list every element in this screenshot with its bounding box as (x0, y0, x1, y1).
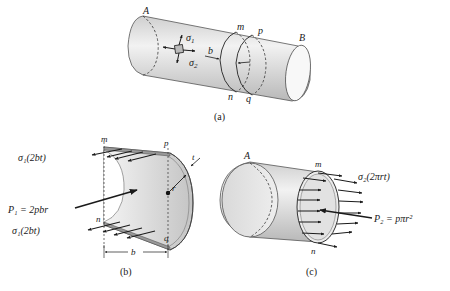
cylinder-stress-diagram: A B σ1 σ2 b m p n q (a) (0, 0, 450, 291)
cylinder-body (128, 16, 310, 101)
panel-a: A B σ1 σ2 b m p n q (a) (128, 5, 314, 123)
label-top-force: σ₁(2bt) (18, 152, 47, 164)
label-t: t (192, 152, 195, 162)
label-n: n (96, 214, 101, 224)
label-B: B (299, 32, 305, 43)
label-sigma2-force: σ₂(2πrt) (358, 171, 390, 183)
closed-end-cap (222, 163, 278, 237)
label-r: r (172, 183, 176, 193)
label-pressure-force: P₁ = 2pbr (7, 204, 48, 215)
label-p: p (163, 138, 169, 148)
panel-b: m n p q t r b σ₁(2bt) σ₁(2bt) P₁ = 2pbr … (7, 134, 200, 278)
panel-c: A m n σ₂(2πrt) P₂ = pπr² (c) (220, 150, 413, 278)
label-pressure-force: P₂ = pπr² (373, 213, 413, 224)
stress-element (174, 44, 183, 53)
label-A: A (142, 5, 150, 16)
label-q: q (246, 93, 251, 104)
caption-c: (c) (306, 266, 317, 278)
label-m: m (315, 159, 322, 169)
label-bottom-force: σ₁(2bt) (12, 225, 41, 237)
label-m: m (101, 134, 108, 144)
cut-face-inner (300, 174, 336, 240)
label-m: m (237, 21, 244, 32)
caption-b: (b) (120, 266, 132, 278)
caption-a: (a) (214, 111, 225, 123)
label-b: b (208, 45, 213, 56)
label-b: b (131, 247, 136, 257)
label-n: n (311, 246, 316, 256)
label-A: A (243, 150, 251, 161)
label-q: q (164, 233, 169, 243)
label-p: p (257, 25, 263, 36)
label-n: n (228, 91, 233, 102)
